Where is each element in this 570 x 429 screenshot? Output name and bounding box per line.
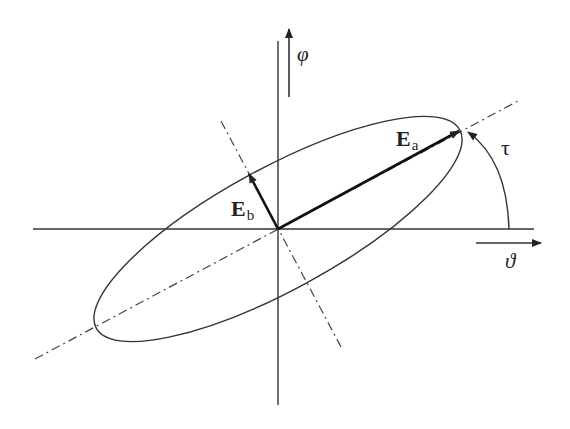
major-field-vector-ea xyxy=(278,131,459,229)
eb-main: E xyxy=(231,196,246,221)
eb-subscript: b xyxy=(247,207,255,223)
polarization-ellipse-diagram xyxy=(0,0,570,429)
tilt-angle-label: τ xyxy=(501,137,510,159)
ea-vector-label: Ea xyxy=(396,128,418,153)
eb-vector-label: Eb xyxy=(231,198,254,223)
ea-subscript: a xyxy=(412,137,419,153)
phi-axis-label: φ xyxy=(297,44,309,65)
minor-axis-line xyxy=(221,121,341,347)
theta-axis-label: ϑ xyxy=(505,251,515,272)
ea-main: E xyxy=(396,126,411,151)
